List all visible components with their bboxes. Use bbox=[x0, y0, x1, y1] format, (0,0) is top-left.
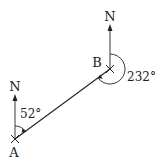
north-arrow-a bbox=[13, 94, 18, 139]
angle-arc-a bbox=[15, 126, 27, 132]
angle-arc-b bbox=[98, 54, 125, 84]
angle-label-a: 52° bbox=[20, 107, 41, 121]
angle-label-b: 232° bbox=[127, 70, 156, 84]
north-arrow-b bbox=[108, 24, 113, 69]
bearing-diagram: N N A B 52° 232° bbox=[0, 0, 158, 165]
point-b-label: B bbox=[92, 55, 102, 70]
line-a-b bbox=[15, 69, 110, 139]
north-label-b: N bbox=[104, 9, 115, 24]
point-a-label: A bbox=[8, 145, 19, 160]
north-label-a: N bbox=[9, 79, 20, 94]
